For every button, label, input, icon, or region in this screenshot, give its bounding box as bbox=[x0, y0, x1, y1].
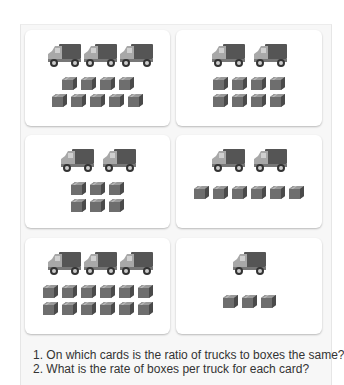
box-icon bbox=[61, 301, 78, 316]
box-icon bbox=[89, 198, 106, 213]
box-icon bbox=[51, 93, 68, 108]
box-icon bbox=[80, 301, 97, 316]
box-icon bbox=[118, 284, 135, 299]
box-icon bbox=[250, 76, 267, 91]
box-icon bbox=[269, 93, 286, 108]
truck-group bbox=[210, 42, 288, 68]
box-icon bbox=[61, 76, 78, 91]
card-5 bbox=[25, 238, 170, 334]
box-group bbox=[25, 284, 170, 316]
truck-icon bbox=[210, 147, 246, 173]
box-icon bbox=[269, 185, 286, 200]
truck-icon bbox=[82, 42, 118, 68]
box-icon bbox=[250, 93, 267, 108]
card-1 bbox=[25, 30, 170, 126]
box-icon bbox=[99, 284, 116, 299]
box-icon bbox=[89, 181, 106, 196]
truck-group bbox=[46, 42, 154, 68]
truck-group bbox=[46, 250, 154, 276]
box-icon bbox=[108, 198, 125, 213]
box-icon bbox=[99, 76, 116, 91]
truck-icon bbox=[118, 42, 154, 68]
box-icon bbox=[231, 185, 248, 200]
box-icon bbox=[118, 76, 135, 91]
box-group bbox=[176, 185, 322, 200]
truck-icon bbox=[252, 42, 288, 68]
truck-icon bbox=[59, 147, 95, 173]
questions: 1. On which cards is the ratio of trucks… bbox=[33, 348, 344, 376]
box-group bbox=[25, 76, 170, 108]
truck-icon bbox=[231, 250, 267, 276]
truck-icon bbox=[46, 42, 82, 68]
box-icon bbox=[231, 93, 248, 108]
box-icon bbox=[80, 284, 97, 299]
box-icon bbox=[70, 181, 87, 196]
box-icon bbox=[70, 93, 87, 108]
truck-icon bbox=[82, 250, 118, 276]
box-icon bbox=[193, 185, 210, 200]
box-icon bbox=[212, 93, 229, 108]
box-icon bbox=[42, 301, 59, 316]
box-group bbox=[25, 181, 170, 213]
box-group bbox=[176, 76, 322, 108]
box-icon bbox=[108, 93, 125, 108]
box-icon bbox=[137, 284, 154, 299]
truck-icon bbox=[210, 42, 246, 68]
truck-group bbox=[231, 250, 267, 276]
box-group bbox=[176, 294, 322, 309]
box-icon bbox=[288, 185, 305, 200]
truck-group bbox=[210, 147, 288, 173]
box-icon bbox=[118, 301, 135, 316]
truck-icon bbox=[46, 250, 82, 276]
box-icon bbox=[250, 185, 267, 200]
box-icon bbox=[89, 93, 106, 108]
box-icon bbox=[260, 294, 277, 309]
box-icon bbox=[269, 76, 286, 91]
question-1: 1. On which cards is the ratio of trucks… bbox=[33, 348, 344, 362]
card-6 bbox=[176, 238, 322, 334]
truck-icon bbox=[252, 147, 288, 173]
box-icon bbox=[61, 284, 78, 299]
question-2: 2. What is the rate of boxes per truck f… bbox=[33, 362, 344, 376]
box-icon bbox=[212, 185, 229, 200]
truck-icon bbox=[118, 250, 154, 276]
box-icon bbox=[80, 76, 97, 91]
box-icon bbox=[70, 198, 87, 213]
box-icon bbox=[108, 181, 125, 196]
box-icon bbox=[127, 93, 144, 108]
truck-icon bbox=[101, 147, 137, 173]
box-icon bbox=[231, 76, 248, 91]
box-icon bbox=[99, 301, 116, 316]
box-icon bbox=[212, 76, 229, 91]
box-icon bbox=[137, 301, 154, 316]
box-icon bbox=[222, 294, 239, 309]
card-3 bbox=[25, 135, 170, 228]
box-icon bbox=[241, 294, 258, 309]
card-2 bbox=[176, 30, 322, 126]
truck-group bbox=[59, 147, 137, 173]
box-icon bbox=[42, 284, 59, 299]
card-4 bbox=[176, 135, 322, 228]
